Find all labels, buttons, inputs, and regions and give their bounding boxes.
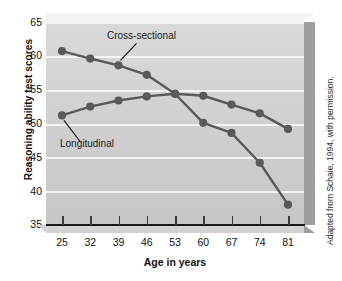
series-markers-longitudinal [58, 90, 292, 133]
source-credit: Adapted from Schaie, 1994, with permissi… [325, 15, 335, 245]
series-line-cross-sectional [62, 51, 288, 205]
x-tick-label: 25 [47, 236, 77, 248]
x-axis-title: Age in years [46, 256, 304, 268]
x-tick-label: 74 [245, 236, 275, 248]
data-point [227, 129, 235, 137]
x-tick-mark [90, 216, 92, 225]
x-tick-mark [203, 216, 205, 225]
series-svg [46, 22, 304, 225]
data-point [58, 47, 66, 55]
x-tick-mark [147, 216, 149, 225]
data-point [256, 159, 264, 167]
y-tick-label: 55 [20, 83, 42, 95]
x-tick-label: 67 [217, 236, 247, 248]
data-point [143, 71, 151, 79]
y-tick-label: 60 [20, 49, 42, 61]
y-tick-label: 65 [20, 16, 42, 28]
x-tick-mark [288, 216, 290, 225]
panel-bottom-face [46, 225, 304, 233]
x-tick-mark [232, 216, 234, 225]
annotation-longitudinal: Longitudinal [60, 138, 114, 149]
data-point [58, 111, 66, 119]
y-tick-label: 40 [20, 185, 42, 197]
series-line-longitudinal [62, 94, 288, 129]
panel-bottom-bevel [38, 225, 46, 233]
chart-figure: Reasoning ability test scores 65 60 55 5… [0, 0, 342, 281]
plot-area [46, 22, 304, 225]
x-tick-label: 53 [160, 236, 190, 248]
x-tick-label: 81 [273, 236, 303, 248]
panel-top-face [46, 13, 304, 22]
data-point [86, 102, 94, 110]
data-point [284, 201, 292, 209]
data-point [86, 54, 94, 62]
x-tick-label: 39 [104, 236, 134, 248]
leader-line-cross-sectional [121, 43, 137, 60]
data-point [199, 119, 207, 127]
data-point [114, 61, 122, 69]
panel-right-face [304, 22, 315, 225]
y-axis-tick-labels: 65 60 55 50 45 40 35 [16, 0, 42, 281]
x-tick-mark [260, 216, 262, 225]
data-point [256, 109, 264, 117]
data-point [114, 96, 122, 104]
x-tick-mark [175, 216, 177, 225]
y-tick-label: 45 [20, 151, 42, 163]
x-tick-label: 60 [188, 236, 218, 248]
annotation-cross-sectional: Cross-sectional [107, 30, 176, 41]
x-tick-label: 32 [75, 236, 105, 248]
panel-top-bevel [304, 13, 315, 22]
series-markers-cross-sectional [58, 47, 292, 209]
y-tick-label: 50 [20, 117, 42, 129]
data-point [284, 125, 292, 133]
data-point [227, 100, 235, 108]
x-tick-mark [119, 216, 121, 225]
x-tick-label: 46 [132, 236, 162, 248]
data-point [199, 92, 207, 100]
panel-right-bevel [304, 225, 315, 233]
data-point [143, 92, 151, 100]
x-tick-mark [62, 216, 64, 225]
data-point [171, 90, 179, 98]
